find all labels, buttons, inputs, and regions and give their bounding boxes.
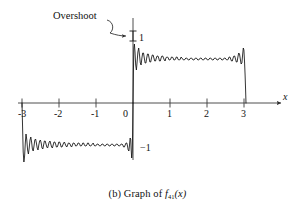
overshoot-label: Overshoot: [53, 10, 97, 21]
overshoot-annotation: [107, 20, 137, 41]
caption-prefix: (b) Graph of: [109, 188, 165, 199]
figure-caption: (b) Graph of f41(x): [0, 188, 295, 203]
x-tick-label-2: 2: [204, 108, 209, 119]
x-tick-label--3: -3: [18, 108, 26, 119]
x-tick-label-1: 1: [167, 108, 172, 119]
x-tick-label-3: 3: [241, 108, 246, 119]
x-tick-label--1: -1: [91, 108, 99, 119]
x-axis: [18, 99, 281, 108]
x-tick-label-0: 0: [123, 108, 128, 119]
y-label-upper: 1: [139, 32, 144, 43]
x-tick-label--2: -2: [54, 108, 62, 119]
plot-canvas: Overshoot 1 −1 x -3 -2 -1 0 1 2 3: [0, 0, 295, 180]
caption-argument: (x): [174, 188, 186, 199]
figure-text-labels: Overshoot 1 −1 x -3 -2 -1 0 1 2 3: [18, 10, 288, 153]
x-axis-label: x: [282, 91, 288, 102]
curve-segment-right: [133, 44, 246, 103]
curve-segment-left: [22, 103, 133, 162]
overshoot-arrow-icon: [107, 20, 126, 36]
y-label-lower: −1: [140, 142, 151, 153]
gibbs-phenomenon-figure: Overshoot 1 −1 x -3 -2 -1 0 1 2 3 (b) Gr…: [0, 0, 295, 210]
overshoot-marker-icon: [130, 31, 137, 41]
